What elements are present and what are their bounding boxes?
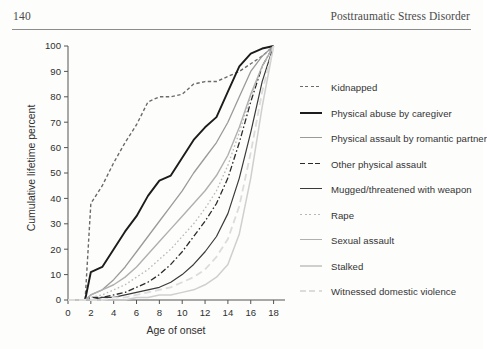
svg-text:12: 12 (200, 307, 211, 318)
legend-item-label: Mugged/threatened with weapon (331, 177, 472, 203)
svg-text:20: 20 (50, 244, 61, 255)
chart-curves (68, 46, 274, 300)
svg-text:16: 16 (245, 307, 256, 318)
page-number: 140 (13, 10, 31, 22)
figure-container: 0102030405060708090100024681012141618 Cu… (0, 34, 483, 349)
series-line (68, 46, 274, 300)
legend-line-swatch-icon (300, 163, 322, 164)
legend-item[interactable]: Rape (300, 203, 480, 229)
legend-item[interactable]: Physical assault by romantic partner (300, 126, 480, 152)
svg-text:50: 50 (50, 167, 61, 178)
legend-line-swatch-icon (300, 112, 322, 114)
svg-text:80: 80 (50, 91, 61, 102)
legend-item-label: Physical assault by romantic partner (331, 126, 487, 152)
legend-line-swatch-icon (300, 239, 322, 240)
svg-text:4: 4 (111, 307, 117, 318)
svg-text:8: 8 (157, 307, 162, 318)
legend-item-label: Rape (331, 203, 354, 229)
legend-item-label: Witnessed domestic violence (331, 279, 456, 305)
svg-text:90: 90 (50, 66, 61, 77)
series-line (68, 46, 274, 300)
y-axis-title: Cumulative lifetime percent (25, 68, 37, 268)
legend-item-label: Physical abuse by caregiver (331, 101, 452, 127)
legend-line-swatch-icon (300, 86, 322, 87)
legend-item-label: Stalked (331, 254, 363, 280)
legend-line-swatch-icon (300, 188, 322, 189)
svg-text:0: 0 (65, 307, 70, 318)
svg-text:10: 10 (50, 269, 61, 280)
svg-text:0: 0 (56, 294, 61, 305)
svg-text:6: 6 (134, 307, 139, 318)
legend-item-label: Kidnapped (331, 75, 377, 101)
series-line (68, 46, 274, 300)
running-head-title: Posttraumatic Stress Disorder (330, 10, 470, 22)
svg-text:60: 60 (50, 142, 61, 153)
legend-item[interactable]: Other physical assault (300, 152, 480, 178)
legend-item[interactable]: Witnessed domestic violence (300, 279, 480, 305)
header-divider (12, 29, 471, 30)
series-line (68, 46, 274, 300)
x-axis-title: Age of onset (68, 324, 284, 336)
svg-text:2: 2 (88, 307, 93, 318)
running-head: 140 Posttraumatic Stress Disorder (0, 0, 483, 34)
legend-item[interactable]: Stalked (300, 254, 480, 280)
legend-item-label: Sexual assault (331, 228, 394, 254)
legend-line-swatch-icon (300, 214, 322, 215)
legend-item-label: Other physical assault (331, 152, 426, 178)
svg-text:70: 70 (50, 117, 61, 128)
svg-text:10: 10 (177, 307, 188, 318)
legend-item[interactable]: Sexual assault (300, 228, 480, 254)
chart-legend: KidnappedPhysical abuse by caregiverPhys… (300, 75, 480, 305)
svg-text:18: 18 (268, 307, 279, 318)
legend-line-swatch-icon (300, 137, 322, 138)
legend-item[interactable]: Physical abuse by caregiver (300, 101, 480, 127)
svg-text:100: 100 (45, 40, 61, 51)
series-line (68, 46, 274, 300)
legend-item[interactable]: Mugged/threatened with weapon (300, 177, 480, 203)
series-line (68, 46, 274, 300)
legend-line-swatch-icon (300, 265, 322, 267)
svg-text:14: 14 (223, 307, 234, 318)
series-line (68, 46, 274, 300)
series-line (68, 46, 274, 300)
legend-line-swatch-icon (300, 290, 322, 292)
series-line (68, 46, 274, 300)
svg-text:40: 40 (50, 193, 61, 204)
legend-item[interactable]: Kidnapped (300, 75, 480, 101)
svg-text:30: 30 (50, 218, 61, 229)
